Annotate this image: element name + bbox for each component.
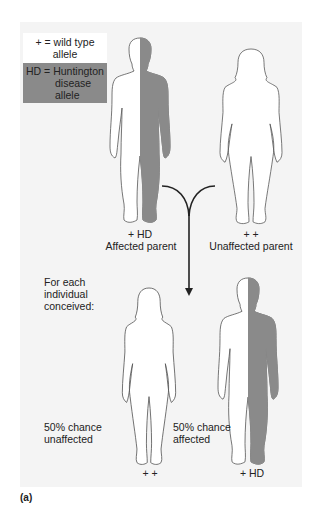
unaffected-parent-figure bbox=[220, 49, 282, 224]
offspring-heading-line2: individual bbox=[44, 288, 88, 300]
affected-parent-genotype: + HD bbox=[110, 228, 170, 240]
offspring-unaffected-line1: 50% chance bbox=[44, 421, 102, 433]
offspring-heading-line3: conceived: bbox=[44, 300, 94, 312]
offspring-unaffected-line2: unaffected bbox=[44, 433, 93, 445]
offspring-unaffected-genotype: + + bbox=[120, 467, 180, 479]
offspring-unaffected-figure bbox=[122, 288, 175, 464]
unaffected-parent-genotype: + + bbox=[221, 228, 281, 240]
panel-label: (a) bbox=[20, 492, 32, 504]
unaffected-parent-label: Unaffected parent bbox=[206, 240, 296, 252]
offspring-affected-figure bbox=[218, 278, 278, 464]
affected-parent-figure bbox=[110, 38, 170, 222]
offspring-heading-line1: For each bbox=[44, 276, 85, 288]
offspring-affected-genotype: + HD bbox=[222, 467, 282, 479]
affected-parent-label: Affected parent bbox=[96, 240, 186, 252]
offspring-affected-line2: affected bbox=[173, 433, 210, 445]
offspring-affected-line1: 50% chance bbox=[173, 421, 231, 433]
